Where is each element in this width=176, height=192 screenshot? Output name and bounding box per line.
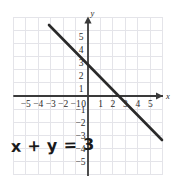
x-tick-label: 5 bbox=[148, 99, 153, 109]
y-tick-label: 3 bbox=[79, 58, 84, 68]
x-tick-label: 1 bbox=[98, 99, 103, 109]
x-tick-label: −4 bbox=[33, 99, 43, 109]
x-axis-tick-labels-negative: −5 −4 −3 −2 −1 bbox=[21, 99, 81, 109]
graph-figure: y x −5 −4 −3 −2 −1 0 1 2 3 4 5 5 4 3 2 1 bbox=[0, 0, 176, 192]
y-axis-label: y bbox=[90, 8, 95, 18]
y-tick-label: −2 bbox=[75, 118, 85, 128]
y-tick-label: −5 bbox=[75, 157, 85, 167]
equation-annotation: x + y = 3 bbox=[11, 135, 95, 156]
y-tick-label: 5 bbox=[79, 32, 84, 42]
y-tick-label: −1 bbox=[75, 105, 85, 115]
coordinate-plane-chart: y x −5 −4 −3 −2 −1 0 1 2 3 4 5 5 4 3 2 1 bbox=[0, 0, 176, 192]
x-tick-label: −2 bbox=[58, 99, 68, 109]
x-tick-label: −3 bbox=[46, 99, 56, 109]
x-tick-label: −5 bbox=[21, 99, 31, 109]
y-tick-label: 2 bbox=[79, 71, 84, 81]
x-tick-label: 2 bbox=[111, 99, 116, 109]
y-axis-tick-labels-positive: 5 4 3 2 1 bbox=[79, 32, 84, 95]
y-tick-label: 4 bbox=[79, 45, 84, 55]
x-tick-label: 3 bbox=[123, 99, 128, 109]
x-tick-label: 4 bbox=[135, 99, 140, 109]
x-axis-label: x bbox=[165, 91, 170, 101]
y-tick-label: 1 bbox=[79, 84, 84, 94]
